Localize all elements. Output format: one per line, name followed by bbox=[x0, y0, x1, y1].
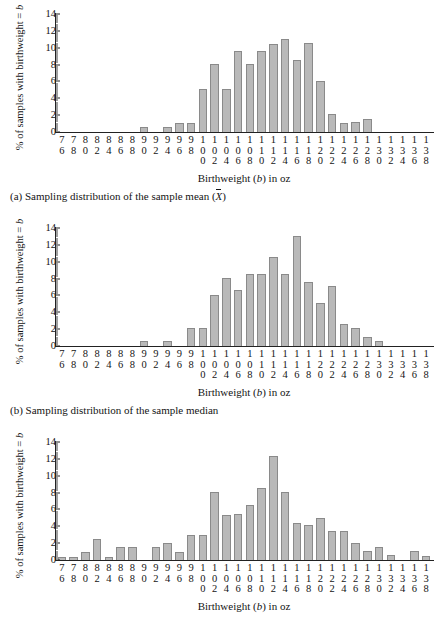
y-tick-mark bbox=[56, 47, 60, 48]
y-tick-mark bbox=[56, 132, 60, 133]
y-tick-minor bbox=[56, 335, 58, 336]
y-tick-minor bbox=[56, 96, 58, 97]
bar bbox=[281, 492, 290, 560]
x-tick-label: 80 bbox=[80, 349, 92, 381]
bar-cell bbox=[244, 442, 256, 560]
x-axis-line-c bbox=[56, 560, 434, 561]
y-tick-minor bbox=[56, 291, 58, 292]
y-tick-minor bbox=[56, 108, 58, 109]
bar bbox=[281, 39, 290, 132]
x-tick-label: 138 bbox=[420, 563, 432, 595]
y-tick-mark bbox=[56, 475, 60, 476]
bar bbox=[340, 324, 349, 346]
y-tick-minor bbox=[56, 308, 58, 309]
y-tick-minor bbox=[56, 56, 58, 57]
y-tick-minor bbox=[56, 299, 58, 300]
x-tick-label: 138 bbox=[420, 349, 432, 381]
y-tick-minor bbox=[56, 513, 58, 514]
bar-series-c bbox=[56, 442, 432, 560]
y-tick-minor bbox=[56, 484, 58, 485]
y-tick-minor bbox=[56, 316, 58, 317]
bar-cell bbox=[197, 442, 209, 560]
y-tick-minor bbox=[56, 70, 58, 71]
x-tick-label: 80 bbox=[80, 135, 92, 167]
y-tick-mark bbox=[56, 261, 60, 262]
x-axis-ticks-b: 7678808284868890929496981001021041061081… bbox=[56, 349, 432, 381]
bar-cell bbox=[150, 228, 162, 346]
y-tick-minor bbox=[56, 322, 58, 323]
y-tick-minor bbox=[56, 538, 58, 539]
x-tick-label: 126 bbox=[350, 349, 362, 381]
bar bbox=[328, 114, 337, 132]
bar-cell bbox=[209, 14, 221, 132]
bar-cell bbox=[409, 14, 421, 132]
bar-cell bbox=[150, 442, 162, 560]
bar-cell bbox=[256, 14, 268, 132]
bar bbox=[257, 488, 266, 560]
bar-cell bbox=[68, 14, 80, 132]
y-tick-minor bbox=[56, 327, 58, 328]
bar-cell bbox=[315, 442, 327, 560]
y-tick-minor bbox=[56, 479, 58, 480]
x-tick-label: 110 bbox=[256, 563, 268, 595]
bar-cell bbox=[315, 14, 327, 132]
x-tick-label: 94 bbox=[162, 563, 174, 595]
x-tick-label: 134 bbox=[397, 135, 409, 167]
y-tick-minor bbox=[56, 469, 58, 470]
x-tick-label: 102 bbox=[209, 135, 221, 167]
y-tick-minor bbox=[56, 297, 58, 298]
bar bbox=[375, 547, 384, 560]
y-tick-minor bbox=[56, 79, 58, 80]
y-tick-minor bbox=[56, 488, 58, 489]
y-tick-mark bbox=[56, 492, 60, 493]
y-tick-minor bbox=[56, 456, 58, 457]
y-tick-minor bbox=[56, 341, 58, 342]
bar bbox=[222, 89, 231, 132]
x-tick-label: 92 bbox=[150, 349, 162, 381]
bar-series-a bbox=[56, 14, 432, 132]
x-tick-label: 116 bbox=[291, 349, 303, 381]
bar bbox=[175, 552, 184, 560]
bar-cell bbox=[409, 442, 421, 560]
bar bbox=[316, 303, 325, 346]
panel-c: % of samples with birthweight = b 024681… bbox=[0, 428, 440, 642]
y-tick-minor bbox=[56, 460, 58, 461]
x-tick-label: 98 bbox=[185, 563, 197, 595]
x-tick-label: 136 bbox=[409, 563, 421, 595]
y-tick-minor bbox=[56, 282, 58, 283]
y-tick-minor bbox=[56, 119, 58, 120]
y-tick-minor bbox=[56, 339, 58, 340]
y-tick-minor bbox=[56, 257, 58, 258]
y-tick-minor bbox=[56, 530, 58, 531]
x-tick-label: 78 bbox=[68, 349, 80, 381]
x-tick-label: 104 bbox=[221, 135, 233, 167]
bar bbox=[199, 89, 208, 132]
x-tick-label: 130 bbox=[373, 349, 385, 381]
plot-area-c bbox=[56, 442, 432, 560]
y-tick-minor bbox=[56, 494, 58, 495]
y-tick-minor bbox=[56, 450, 58, 451]
x-tick-label: 138 bbox=[420, 135, 432, 167]
x-tick-label: 84 bbox=[103, 563, 115, 595]
bar bbox=[116, 547, 125, 560]
y-tick-minor bbox=[56, 318, 58, 319]
bar-cell bbox=[91, 442, 103, 560]
bar-cell bbox=[138, 228, 150, 346]
bar-cell bbox=[338, 228, 350, 346]
x-tick-label: 100 bbox=[197, 135, 209, 167]
bar-cell bbox=[373, 442, 385, 560]
x-tick-label: 132 bbox=[385, 135, 397, 167]
x-tick-label: 106 bbox=[232, 563, 244, 595]
x-tick-label: 108 bbox=[244, 135, 256, 167]
y-tick-minor bbox=[56, 471, 58, 472]
bar-cell bbox=[209, 442, 221, 560]
bar bbox=[363, 119, 372, 132]
bar-cell bbox=[420, 442, 432, 560]
y-tick-minor bbox=[56, 519, 58, 520]
y-tick-minor bbox=[56, 557, 58, 558]
bar bbox=[257, 274, 266, 346]
bar-cell bbox=[103, 14, 115, 132]
x-tick-label: 104 bbox=[221, 563, 233, 595]
x-tick-label: 128 bbox=[362, 563, 374, 595]
x-tick-label: 120 bbox=[315, 349, 327, 381]
